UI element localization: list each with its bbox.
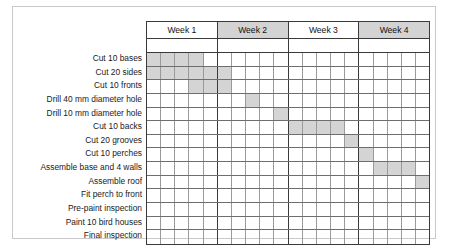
gantt-cell	[204, 148, 218, 161]
gantt-cell	[303, 230, 317, 244]
gantt-cell	[189, 135, 203, 148]
gantt-cell	[161, 203, 175, 216]
gantt-cell	[345, 176, 359, 189]
gantt-bar-segment	[331, 121, 345, 134]
gantt-cell	[374, 67, 388, 80]
gantt-cell	[246, 80, 260, 93]
gantt-cell	[388, 53, 402, 66]
gantt-cell	[359, 189, 373, 202]
gantt-bar-segment	[374, 162, 388, 175]
gantt-cell	[345, 203, 359, 216]
task-label: Cut 20 grooves	[33, 134, 146, 148]
gantt-cell	[246, 108, 260, 121]
gantt-cell	[374, 80, 388, 93]
gantt-cell	[147, 230, 161, 244]
gantt-cell	[204, 53, 218, 66]
gantt-cell	[204, 108, 218, 121]
gantt-cell	[246, 53, 260, 66]
gantt-cell	[260, 67, 274, 80]
gantt-cell	[374, 230, 388, 244]
gantt-cell	[260, 162, 274, 175]
gantt-row	[147, 203, 429, 217]
gantt-cell	[189, 108, 203, 121]
gantt-cell	[246, 135, 260, 148]
gantt-cell	[189, 217, 203, 230]
week-header-cell: Week 2	[218, 22, 289, 38]
gantt-cell	[260, 203, 274, 216]
gantt-cell	[402, 121, 416, 134]
gantt-chart: Cut 10 basesCut 20 sidesCut 10 frontsDri…	[33, 21, 431, 239]
gantt-cell	[359, 53, 373, 66]
task-label: Cut 10 perches	[33, 147, 146, 161]
gantt-cell	[204, 94, 218, 107]
task-label: Assemble roof	[33, 175, 146, 189]
gantt-cell	[345, 121, 359, 134]
gantt-bar-segment	[147, 67, 161, 80]
gantt-row	[147, 53, 429, 67]
gantt-cell	[374, 108, 388, 121]
week-subheader-cell	[147, 39, 218, 52]
gantt-cell	[331, 53, 345, 66]
gantt-cell	[147, 217, 161, 230]
gantt-cell	[317, 189, 331, 202]
gantt-cell	[416, 67, 429, 80]
gantt-cell	[317, 203, 331, 216]
gantt-cell	[416, 217, 429, 230]
chart-frame: Cut 10 basesCut 20 sidesCut 10 frontsDri…	[12, 6, 436, 239]
gantt-row	[147, 189, 429, 203]
gantt-cell	[147, 80, 161, 93]
gantt-cell	[303, 203, 317, 216]
gantt-cell	[359, 135, 373, 148]
gantt-cell	[204, 189, 218, 202]
gantt-cell	[218, 108, 232, 121]
gantt-cell	[175, 94, 189, 107]
gantt-cell	[289, 53, 303, 66]
gantt-bar-segment	[388, 162, 402, 175]
gantt-cell	[374, 94, 388, 107]
gantt-cell	[345, 148, 359, 161]
gantt-cell	[260, 148, 274, 161]
task-label: Cut 20 sides	[33, 66, 146, 80]
gantt-row	[147, 162, 429, 176]
gantt-cell	[246, 121, 260, 134]
gantt-cell	[289, 80, 303, 93]
gantt-cell	[274, 80, 288, 93]
gantt-cell	[232, 189, 246, 202]
gantt-cell	[317, 80, 331, 93]
gantt-cell	[402, 80, 416, 93]
gantt-cell	[289, 217, 303, 230]
gantt-cell	[161, 121, 175, 134]
task-label: Drill 10 mm diameter hole	[33, 107, 146, 121]
gantt-bar-segment	[161, 53, 175, 66]
gantt-cell	[416, 135, 429, 148]
gantt-cell	[331, 67, 345, 80]
gantt-row	[147, 121, 429, 135]
gantt-cell	[289, 162, 303, 175]
gantt-cell	[232, 108, 246, 121]
task-label: Cut 10 fronts	[33, 79, 146, 93]
gantt-cell	[331, 80, 345, 93]
gantt-cell	[147, 162, 161, 175]
gantt-cell	[161, 94, 175, 107]
gantt-cell	[331, 108, 345, 121]
gantt-cell	[374, 121, 388, 134]
task-label: Cut 10 bases	[33, 52, 146, 66]
gantt-cell	[175, 148, 189, 161]
gantt-cell	[289, 203, 303, 216]
gantt-row	[147, 135, 429, 149]
gantt-bar-segment	[218, 80, 232, 93]
gantt-bar-segment	[189, 80, 203, 93]
week-header-cell: Week 1	[147, 22, 218, 38]
gantt-cell	[402, 176, 416, 189]
gantt-cell	[147, 108, 161, 121]
gantt-bar-segment	[218, 67, 232, 80]
gantt-cell	[402, 53, 416, 66]
gantt-cell	[204, 217, 218, 230]
task-label: Assemble base and 4 walls	[33, 161, 146, 175]
gantt-cell	[218, 162, 232, 175]
gantt-cell	[161, 176, 175, 189]
gantt-cell	[416, 148, 429, 161]
gantt-cell	[416, 80, 429, 93]
gantt-cell	[274, 230, 288, 244]
gantt-row	[147, 94, 429, 108]
